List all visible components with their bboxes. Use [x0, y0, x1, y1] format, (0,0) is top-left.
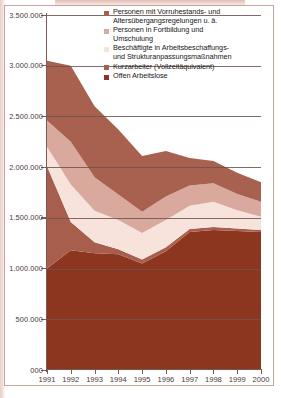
legend-swatch-icon [104, 47, 109, 52]
legend-label: Beschäftigte in Arbeitsbeschaffungs-und … [113, 44, 232, 61]
legend-swatch-icon [104, 29, 109, 34]
x-axis-label: 1992 [62, 375, 79, 384]
chart-page: 000500.0001.000.0001.500.0002.000.0002.5… [0, 0, 281, 398]
x-axis-tick [213, 370, 214, 374]
y-axis-label: 2.500.000 [9, 112, 43, 121]
x-axis-tick [95, 370, 96, 374]
x-axis-label: 1994 [110, 375, 127, 384]
y-axis-label: 500.000 [16, 315, 43, 324]
x-axis-tick [190, 370, 191, 374]
legend-label: Offen Arbeitslose [113, 72, 168, 81]
x-axis-tick [47, 370, 48, 374]
x-axis-label: 2000 [253, 375, 270, 384]
y-axis-label: 1.000.000 [9, 264, 43, 273]
legend-swatch-icon [104, 11, 109, 16]
chart-legend: Personen mit Vorruhestands- undAltersübe… [104, 8, 270, 82]
x-axis-label: 1991 [39, 375, 56, 384]
x-axis-tick [142, 370, 143, 374]
legend-item: Beschäftigte in Arbeitsbeschaffungs-und … [104, 44, 270, 61]
legend-swatch-icon [104, 75, 109, 80]
x-axis-tick [118, 370, 119, 374]
x-axis-label: 1993 [86, 375, 103, 384]
y-axis-label: 2.000.000 [9, 163, 43, 172]
legend-item: Offen Arbeitslose [104, 72, 270, 81]
x-axis-tick [71, 370, 72, 374]
x-axis-tick [261, 370, 262, 374]
x-axis-tick [166, 370, 167, 374]
x-axis-label: 1997 [181, 375, 198, 384]
legend-label: Kurzarbeiter (Vollzeitäquivalent) [113, 63, 214, 72]
gridline [47, 116, 261, 117]
gridline [47, 269, 261, 270]
y-axis-label: 3.500.000 [9, 11, 43, 20]
x-axis-label: 1995 [134, 375, 151, 384]
x-axis-label: 1996 [157, 375, 174, 384]
stacked-area-chart: 000500.0001.000.0001.500.0002.000.0002.5… [0, 0, 281, 398]
gridline [47, 319, 261, 320]
gridline [47, 218, 261, 219]
y-axis-label: 1.500.000 [9, 213, 43, 222]
y-axis-label: 000 [30, 366, 43, 375]
legend-item: Personen in Fortbildung undUmschulung [104, 26, 270, 43]
legend-item: Personen mit Vorruhestands- undAltersübe… [104, 8, 270, 25]
y-axis-line [46, 13, 47, 372]
x-axis-line [46, 369, 262, 370]
x-axis-label: 1998 [205, 375, 222, 384]
legend-label: Personen in Fortbildung undUmschulung [113, 26, 203, 43]
legend-swatch-icon [104, 65, 109, 70]
gridline [47, 167, 261, 168]
x-axis-tick [237, 370, 238, 374]
legend-item: Kurzarbeiter (Vollzeitäquivalent) [104, 63, 270, 72]
legend-label: Personen mit Vorruhestands- undAltersübe… [113, 8, 220, 25]
y-axis-label: 3.000.000 [9, 61, 43, 70]
x-axis-label: 1999 [229, 375, 246, 384]
